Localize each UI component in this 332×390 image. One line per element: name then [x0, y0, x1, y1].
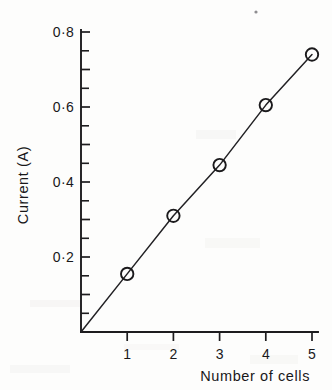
x-tick-label-1: 1 [123, 346, 131, 362]
y-tick-label-2: 0·4 [53, 174, 74, 190]
line-chart-current-vs-cells: 0·8 0·6 0·4 0·2 1 2 3 4 5 Number of cell… [0, 0, 332, 390]
y-tick-label-0: 0·8 [53, 24, 74, 40]
x-tick-label-2: 2 [170, 346, 178, 362]
y-tick-label-3: 0·2 [53, 249, 74, 265]
scan-speck-artifact [254, 10, 257, 13]
x-tick-label-5: 5 [308, 346, 316, 362]
x-tick-label-4: 4 [262, 346, 270, 362]
y-tick-label-1: 0·6 [53, 99, 74, 115]
y-axis-title: Current (A) [15, 146, 31, 224]
x-axis-title: Number of cells [200, 368, 310, 384]
x-tick-label-3: 3 [216, 346, 224, 362]
